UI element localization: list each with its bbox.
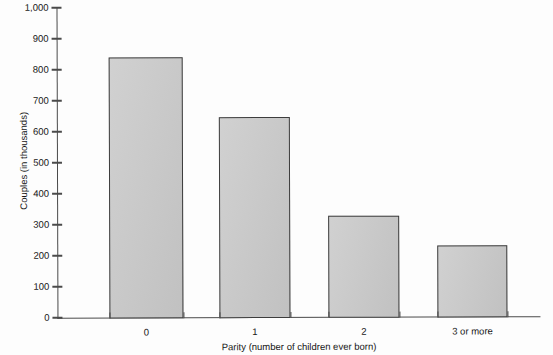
x-axis-category-label: 1 (199, 327, 310, 337)
plot-area: 01002003004005006007008009001,000 0123 o… (0, 0, 553, 355)
y-axis-tick (52, 193, 62, 194)
y-axis-tick-label: 800 (3, 65, 49, 75)
y-axis-tick-label-wrap: 1,000 (0, 3, 49, 13)
y-axis-tick (52, 100, 62, 101)
bar-chart-figure: 01002003004005006007008009001,000 0123 o… (0, 0, 553, 355)
y-axis-tick (51, 7, 61, 8)
y-axis-tick-label: 200 (3, 251, 49, 261)
y-axis-title: Couples (in thousands) (19, 76, 30, 246)
y-axis-tick (52, 286, 62, 287)
bar (109, 57, 184, 319)
bar-sheen (220, 118, 290, 317)
x-axis-tick (290, 312, 291, 318)
x-axis-tick (219, 312, 220, 318)
bar (219, 117, 291, 318)
y-axis-ticks (0, 0, 552, 1)
y-axis-tick-label-wrap: 900 (0, 34, 49, 44)
x-axis-tick (109, 313, 110, 319)
y-axis-tick (52, 38, 62, 39)
y-axis-tick (52, 317, 62, 318)
bar (437, 245, 507, 318)
bar-series (0, 0, 552, 1)
y-axis-tick (52, 224, 62, 225)
x-axis-category-label: 3 or more (417, 326, 527, 336)
y-axis-tick (52, 162, 62, 163)
y-axis-tick-label: 0 (3, 313, 49, 323)
x-axis-category-label: 0 (89, 327, 203, 337)
y-axis-tick-label-wrap: 0 (0, 313, 49, 323)
x-axis-tick (437, 312, 438, 318)
x-axis-tick (183, 312, 184, 318)
x-axis-tick (507, 311, 508, 317)
x-axis-tick (328, 312, 329, 318)
x-axis-title: Parity (number of children ever born) (58, 341, 541, 353)
y-axis-tick (52, 69, 62, 70)
y-axis-tick-label: 1,000 (2, 3, 48, 13)
bar-sheen (438, 246, 506, 317)
y-axis-tick-label: 900 (3, 34, 49, 44)
bar-sheen (329, 217, 398, 317)
x-axis-tick (399, 312, 400, 318)
y-axis-tick (52, 131, 62, 132)
x-axis-category-label: 2 (308, 327, 419, 337)
y-axis-tick-label-wrap: 800 (0, 65, 49, 75)
y-axis-tick (52, 255, 62, 256)
bar-sheen (110, 58, 183, 318)
y-axis-tick-label: 100 (3, 282, 49, 292)
y-axis-tick-label-wrap: 100 (0, 282, 49, 292)
y-axis-tick-label-wrap: 200 (0, 251, 49, 261)
y-axis-tick-labels: 01002003004005006007008009001,000 (0, 0, 552, 1)
x-axis-ticks (0, 0, 552, 1)
bar (328, 216, 399, 318)
x-axis-category-labels: 0123 or more (0, 0, 552, 1)
